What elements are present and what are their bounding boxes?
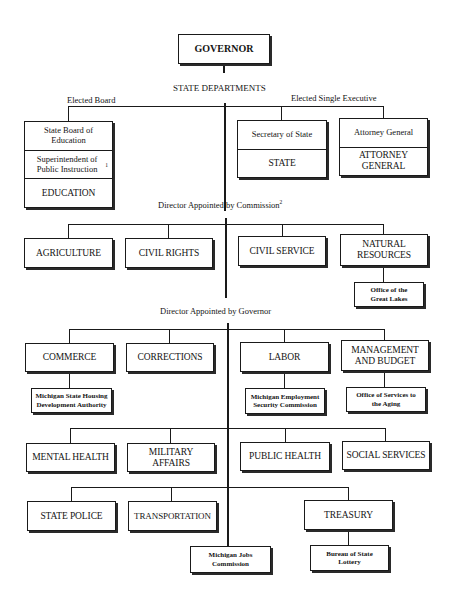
connector bbox=[285, 428, 286, 442]
connector bbox=[171, 487, 172, 501]
central-spine bbox=[224, 103, 226, 211]
footnote-marker: 2 bbox=[280, 199, 283, 205]
governor-label: GOVERNOR bbox=[179, 35, 269, 63]
connector bbox=[348, 530, 349, 545]
secretary-of-state: Secretary of State bbox=[238, 121, 326, 149]
state-departments-heading: STATE DEPARTMENTS bbox=[173, 83, 266, 93]
connector bbox=[68, 106, 384, 107]
dept-treasury: TREASURY bbox=[304, 500, 393, 530]
connector bbox=[70, 428, 386, 429]
connector bbox=[170, 428, 171, 443]
connector bbox=[385, 428, 386, 441]
attorney-general-box: Attorney General ATTORNEY GENERAL bbox=[339, 118, 428, 176]
connector bbox=[383, 224, 384, 234]
dept-social-services: SOCIAL SERVICES bbox=[342, 441, 430, 470]
dept-state-police: STATE POLICE bbox=[27, 501, 116, 531]
dept-attorney-general: ATTORNEY GENERAL bbox=[340, 147, 427, 176]
attorney-general-official: Attorney General bbox=[340, 119, 427, 147]
org-chart: GOVERNOR STATE DEPARTMENTS Elected Board… bbox=[0, 0, 458, 613]
state-box: Secretary of State STATE bbox=[237, 120, 327, 178]
dept-mental-health: MENTAL HEALTH bbox=[26, 443, 115, 472]
connector bbox=[71, 487, 349, 488]
connector bbox=[69, 329, 384, 330]
connector bbox=[70, 428, 71, 443]
dept-natural-resources: NATURAL RESOURCES bbox=[340, 234, 428, 266]
elected-single-executive-label: Elected Single Executive bbox=[291, 93, 376, 103]
governor-box: GOVERNOR bbox=[178, 34, 270, 64]
connector bbox=[284, 372, 285, 388]
connector bbox=[69, 329, 70, 343]
bureau-of-state-lottery: Bureau of State Lottery bbox=[310, 545, 389, 571]
elected-board-label: Elected Board bbox=[67, 95, 115, 105]
connector bbox=[68, 106, 69, 121]
michigan-jobs-commission: Michigan Jobs Commission bbox=[190, 546, 271, 573]
central-spine bbox=[225, 218, 227, 298]
connector bbox=[383, 266, 384, 282]
connector bbox=[69, 372, 70, 388]
education-box: State Board of Education Superintendent … bbox=[24, 121, 113, 208]
office-of-services-to-the-aging: Office of Services to the Aging bbox=[346, 387, 426, 412]
dept-labor: LABOR bbox=[240, 342, 329, 372]
michigan-employment-security-commission: Michigan Employment Security Commission bbox=[245, 388, 325, 414]
dept-civil-service: CIVIL SERVICE bbox=[238, 236, 326, 266]
dept-corrections: CORRECTIONS bbox=[126, 343, 214, 372]
dept-civil-rights: CIVIL RIGHTS bbox=[125, 238, 213, 268]
dept-transportation: TRANSPORTATION bbox=[128, 501, 217, 531]
dept-education: EDUCATION bbox=[25, 178, 112, 207]
appointed-by-commission-label: Director Appointed by Commission2 bbox=[158, 200, 282, 210]
office-of-the-great-lakes: Office of the Great Lakes bbox=[354, 282, 424, 307]
connector bbox=[384, 370, 385, 388]
connector bbox=[169, 329, 170, 343]
dept-state: STATE bbox=[238, 149, 326, 178]
state-board-of-education: State Board of Education bbox=[25, 122, 112, 150]
connector bbox=[282, 224, 283, 236]
connector bbox=[223, 64, 225, 73]
dept-agriculture: AGRICULTURE bbox=[24, 238, 113, 268]
connector bbox=[348, 487, 349, 500]
dept-management-and-budget: MANAGEMENT AND BUDGET bbox=[341, 340, 429, 371]
dept-military-affairs: MILITARY AFFAIRS bbox=[127, 443, 215, 472]
central-spine bbox=[227, 323, 229, 546]
connector bbox=[281, 106, 282, 120]
dept-public-health: PUBLIC HEALTH bbox=[240, 442, 330, 471]
connector bbox=[284, 329, 285, 343]
connector bbox=[71, 487, 72, 501]
michigan-state-housing-development-authority: Michigan State Housing Development Autho… bbox=[31, 388, 112, 413]
connector bbox=[168, 224, 169, 238]
dept-commerce: COMMERCE bbox=[25, 343, 114, 372]
superintendent-of-public-instruction: Superintendent of Public Instruction1 bbox=[25, 150, 112, 179]
appointed-by-governor-label: Director Appointed by Governor bbox=[160, 306, 271, 316]
connector bbox=[68, 224, 384, 225]
connector bbox=[68, 224, 69, 238]
